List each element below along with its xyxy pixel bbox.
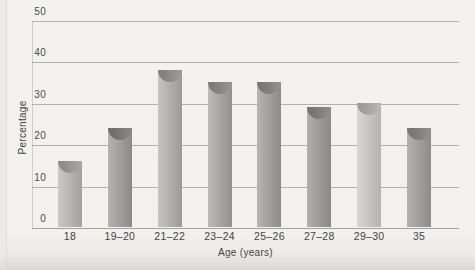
paper-left-edge <box>0 0 7 270</box>
y-axis-title-text: Percentage <box>17 100 28 154</box>
bar-25–26 <box>257 82 281 227</box>
scanned-page-background: Age (years) 010203040501819–2021–2223–24… <box>0 0 475 270</box>
y-gridline-10 <box>32 187 459 188</box>
bar-cap-27–28 <box>307 107 331 119</box>
bar-21–22 <box>158 70 182 227</box>
bar-23–24 <box>208 82 232 227</box>
paper-bottom-shadow <box>0 254 475 270</box>
bar-29–30 <box>357 103 381 227</box>
bar-cap-23–24 <box>208 82 232 94</box>
plot-area: Age (years) 010203040501819–2021–2223–24… <box>32 21 459 228</box>
y-gridline-40 <box>32 62 459 63</box>
bar-35 <box>407 128 431 227</box>
bar-18 <box>58 161 82 227</box>
y-tick-label-40: 40 <box>14 47 46 59</box>
bar-cap-25–26 <box>257 82 281 94</box>
y-tick-label-10: 10 <box>14 172 46 184</box>
y-gridline-20 <box>32 145 459 146</box>
y-gridline-0 <box>32 228 459 229</box>
y-tick-label-50: 50 <box>14 6 46 18</box>
y-tick-label-0: 0 <box>14 213 46 225</box>
bar-cap-19–20 <box>108 128 132 140</box>
bar-27–28 <box>307 107 331 227</box>
y-gridline-50 <box>32 21 459 22</box>
bar-19–20 <box>108 128 132 227</box>
bar-cap-29–30 <box>357 103 381 115</box>
y-gridline-30 <box>32 104 459 105</box>
y-tick-label-30: 30 <box>14 89 46 101</box>
x-category-label-35: 35 <box>389 230 449 242</box>
bar-cap-21–22 <box>158 70 182 82</box>
bar-cap-18 <box>58 161 82 173</box>
bar-cap-35 <box>407 128 431 140</box>
